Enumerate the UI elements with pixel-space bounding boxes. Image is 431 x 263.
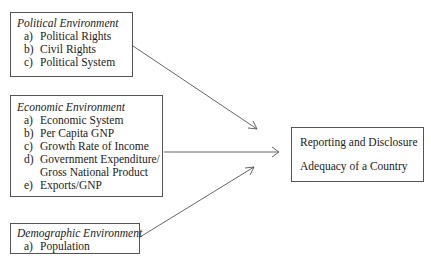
list-item: d)Government Expenditure/ [17,153,162,166]
box-title: Political Environment [17,17,132,30]
reporting-disclosure-box: Reporting and Disclosure Adequacy of a C… [291,127,424,182]
economic-environment-box: Economic Environment a)Economic System b… [10,95,163,197]
list-item: a)Economic System [17,114,162,127]
list-item: c)Growth Rate of Income [17,140,162,153]
outcome-line-2: Adequacy of a Country [300,160,408,173]
list-item-continuation: Gross National Product [17,166,162,179]
list-item: b)Civil Rights [17,43,132,56]
box-title: Demographic Environment [17,227,139,240]
list-item: a)Political Rights [17,30,132,43]
box-title: Economic Environment [17,101,162,114]
list-item: e)Exports/GNP [17,179,162,192]
list-item: b)Per Capita GNP [17,127,162,140]
political-environment-box: Political Environment a)Political Rights… [10,12,133,77]
list-item: a)Population [17,240,139,253]
list-item: c)Political System [17,56,132,69]
outcome-line-1: Reporting and Disclosure [300,136,418,149]
demographic-environment-box: Demographic Environment a)Population [10,223,140,254]
